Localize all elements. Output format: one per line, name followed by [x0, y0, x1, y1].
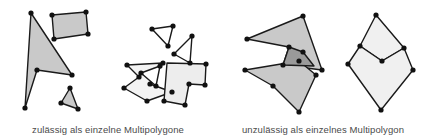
vertex-marker: [28, 10, 33, 15]
caption-left: zulässig als einzelne Multipolygone: [0, 124, 216, 135]
vertex-marker: [83, 9, 88, 14]
vertex-marker: [244, 36, 249, 41]
vertex-marker: [189, 33, 194, 38]
vertex-marker: [69, 72, 74, 77]
upper-right-triangle: [174, 36, 192, 63]
vertex-marker: [319, 67, 324, 72]
vertex-marker: [157, 63, 162, 68]
vertex-marker: [187, 60, 192, 65]
vertex-marker: [203, 61, 208, 66]
vertex-marker: [357, 43, 362, 48]
vertex-marker: [300, 13, 305, 18]
vertex-marker: [296, 109, 301, 114]
vertex-marker: [300, 49, 305, 54]
small-triangle-polygon: [61, 88, 78, 109]
polygon-diagram: [0, 0, 431, 137]
vertex-marker: [379, 58, 384, 63]
vertex-marker: [161, 98, 166, 103]
vertex-marker: [280, 62, 285, 67]
upper-left-triangle: [152, 26, 173, 46]
right-quad-polygon: [164, 63, 206, 105]
vertex-marker: [22, 105, 27, 110]
vertex-marker: [144, 98, 149, 103]
shapes-layer: [25, 12, 413, 112]
vertex-marker: [51, 36, 56, 41]
vertex-marker: [34, 67, 39, 72]
vertex-marker: [85, 31, 90, 36]
vertex-marker: [147, 81, 152, 86]
vertex-marker: [138, 70, 143, 75]
vertex-marker: [296, 58, 301, 63]
vertex-marker: [242, 67, 247, 72]
vertex-marker: [165, 43, 170, 48]
lower-overlapping-polygon: [245, 61, 316, 112]
vertex-marker: [401, 45, 406, 50]
vertex-marker: [373, 12, 378, 17]
vertex-marker: [270, 83, 275, 88]
vertex-marker: [170, 23, 175, 28]
vertex-marker: [58, 100, 63, 105]
vertex-marker: [313, 72, 318, 77]
vertex-marker: [171, 51, 176, 56]
vertex-marker: [153, 83, 158, 88]
vertex-marker: [345, 61, 350, 66]
multipolygon-figure: zulässig als einzelne Multipolygone unzu…: [0, 0, 431, 137]
group-left-disjoint: [25, 12, 88, 109]
vertex-marker: [49, 12, 54, 17]
caption-right: unzulässig als einzelnes Multipolygon: [215, 124, 431, 135]
vertex-marker: [186, 81, 191, 86]
vertex-marker: [286, 44, 291, 49]
vertex-marker: [124, 62, 129, 67]
vertex-marker: [169, 89, 174, 94]
vertex-marker: [378, 107, 383, 112]
vertex-marker: [75, 106, 80, 111]
quadrilateral-polygon: [52, 12, 88, 39]
vertex-marker: [202, 82, 207, 87]
vertex-marker: [182, 102, 187, 107]
vertex-marker: [121, 85, 126, 90]
vertex-marker: [149, 26, 154, 31]
vertex-marker: [410, 67, 415, 72]
vertex-marker: [67, 85, 72, 90]
